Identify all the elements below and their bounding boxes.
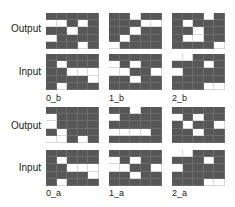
grid-cell-light — [130, 61, 141, 68]
grid-cell-light — [78, 136, 89, 143]
grid-cell-dark — [57, 114, 68, 121]
grid-cell-dark — [204, 129, 215, 136]
grid-cell-light — [120, 35, 131, 42]
grid-cell-dark — [214, 164, 225, 171]
grid-cell-light — [183, 54, 194, 61]
grid-cell-light — [46, 114, 57, 121]
grid-cell-dark — [88, 179, 99, 186]
grid-cell-dark — [172, 27, 183, 34]
grid-cell-dark — [88, 157, 99, 164]
grid-2a-input — [172, 150, 225, 186]
grid-cell-dark — [141, 76, 152, 83]
grid-cell-dark — [141, 179, 152, 186]
grid-cell-dark — [141, 42, 152, 49]
grid-cell-dark — [67, 114, 78, 121]
grid-cell-dark — [214, 35, 225, 42]
grid-cell-light — [109, 114, 120, 121]
grid-cell-dark — [183, 76, 194, 83]
grid-1a-output — [109, 107, 162, 143]
grid-cell-dark — [78, 76, 89, 83]
grid-cell-dark — [141, 121, 152, 128]
grid-cell-light — [172, 54, 183, 61]
grid-cell-dark — [183, 164, 194, 171]
grid-cell-dark — [193, 164, 204, 171]
grid-cell-light — [193, 27, 204, 34]
grid-cell-dark — [193, 157, 204, 164]
grid-cell-dark — [141, 164, 152, 171]
grid-cell-dark — [46, 61, 57, 68]
grid-cell-light — [193, 114, 204, 121]
grid-cell-dark — [67, 20, 78, 27]
grid-cell-dark — [130, 83, 141, 90]
grid-cell-dark — [120, 76, 131, 83]
grid-cell-light — [57, 157, 68, 164]
grid-cell-light — [57, 129, 68, 136]
panel-label-0a: 0_a — [46, 188, 61, 198]
grid-cell-light — [57, 136, 68, 143]
grid-cell-light — [130, 172, 141, 179]
grid-cell-dark — [88, 107, 99, 114]
grid-cell-dark — [120, 13, 131, 20]
grid-cell-light — [130, 157, 141, 164]
grid-cell-dark — [46, 172, 57, 179]
grid-cell-light — [109, 129, 120, 136]
grid-cell-dark — [193, 61, 204, 68]
grid-cell-light — [183, 121, 194, 128]
grid-cell-dark — [141, 27, 152, 34]
grid-cell-dark — [57, 150, 68, 157]
grid-cell-dark — [141, 150, 152, 157]
grid-cell-dark — [204, 68, 215, 75]
grid-cell-light — [172, 150, 183, 157]
panel-label-2b: 2_b — [172, 93, 187, 103]
grid-cell-dark — [151, 27, 162, 34]
grid-cell-dark — [151, 121, 162, 128]
grid-cell-dark — [172, 61, 183, 68]
grid-cell-light — [109, 61, 120, 68]
grid-cell-light — [78, 164, 89, 171]
grid-cell-dark — [151, 35, 162, 42]
grid-cell-light — [130, 129, 141, 136]
grid-cell-light — [193, 129, 204, 136]
grid-cell-dark — [151, 76, 162, 83]
grid-cell-dark — [130, 54, 141, 61]
grid-cell-light — [214, 83, 225, 90]
grid-cell-dark — [151, 129, 162, 136]
grid-cell-dark — [214, 107, 225, 114]
grid-cell-dark — [67, 129, 78, 136]
grid-cell-dark — [67, 136, 78, 143]
row-label-input-top: Input — [1, 66, 41, 78]
grid-cell-light — [204, 13, 215, 20]
grid-cell-dark — [214, 76, 225, 83]
grid-cell-dark — [67, 13, 78, 20]
grid-cell-light — [151, 20, 162, 27]
grid-cell-light — [130, 107, 141, 114]
grid-cell-dark — [109, 172, 120, 179]
grid-cell-dark — [78, 13, 89, 20]
grid-cell-light — [67, 164, 78, 171]
grid-cell-light — [57, 179, 68, 186]
grid-cell-dark — [141, 136, 152, 143]
grid-cell-dark — [193, 68, 204, 75]
grid-cell-dark — [183, 157, 194, 164]
grid-cell-dark — [193, 83, 204, 90]
grid-cell-dark — [120, 27, 131, 34]
grid-cell-light — [67, 27, 78, 34]
grid-cell-dark — [193, 42, 204, 49]
grid-cell-light — [141, 20, 152, 27]
grid-cell-light — [46, 136, 57, 143]
grid-cell-dark — [78, 129, 89, 136]
grid-cell-dark — [172, 157, 183, 164]
grid-0a-output — [46, 107, 99, 143]
grid-cell-light — [214, 42, 225, 49]
grid-cell-dark — [46, 83, 57, 90]
grid-cell-dark — [78, 61, 89, 68]
grid-cell-dark — [88, 35, 99, 42]
grid-cell-light — [57, 20, 68, 27]
grid-cell-dark — [109, 13, 120, 20]
grid-cell-dark — [57, 54, 68, 61]
grid-cell-dark — [130, 179, 141, 186]
grid-cell-dark — [57, 13, 68, 20]
grid-cell-dark — [88, 20, 99, 27]
grid-cell-dark — [57, 121, 68, 128]
grid-cell-light — [57, 61, 68, 68]
